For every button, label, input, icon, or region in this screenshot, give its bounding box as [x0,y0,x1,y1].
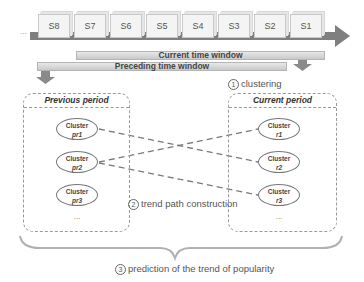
step-prediction-label: 3prediction of the trend of popularity [115,263,274,275]
time-slice-s7: S7 [74,14,106,38]
step-number-badge: 2 [128,199,139,210]
cluster-pr2: Cluster pr2 [56,151,98,173]
current-period-title: Current period [229,94,336,108]
cluster-r3: Cluster r3 [258,184,300,206]
cluster-label: Cluster [268,188,290,195]
time-slice-s2: S2 [254,14,286,38]
cluster-label: Cluster [66,155,88,162]
step-text: clustering [241,78,282,89]
step-text: trend path construction [141,198,238,209]
cluster-id: pr1 [57,130,97,139]
cluster-pr1: Cluster pr1 [56,118,98,140]
cluster-id: r2 [259,163,299,172]
cluster-label: Cluster [66,122,88,129]
step-trend-path-label: 2trend path construction [128,198,238,210]
cluster-id: r1 [259,130,299,139]
current-time-window-bar: Current time window [76,51,325,60]
timeline-leading-ellipsis: ... [20,27,27,36]
time-slice-s8: S8 [38,14,70,38]
current-period-more: ... [268,212,290,221]
cluster-id: pr2 [57,163,97,172]
step-number-badge: 3 [115,264,126,275]
grouping-brace [20,236,342,258]
time-slice-s5: S5 [146,14,178,38]
step-clustering-label: 1clustering [228,78,282,90]
preceding-time-window-bar: Preceding time window [37,62,287,71]
time-slice-s3: S3 [218,14,250,38]
previous-period-title: Previous period [24,94,129,108]
down-arrow-preceding [36,70,55,84]
cluster-r2: Cluster r2 [258,151,300,173]
step-text: prediction of the trend of popularity [128,263,274,274]
previous-period-more: ... [66,212,88,221]
cluster-label: Cluster [268,122,290,129]
time-slice-s6: S6 [110,14,142,38]
time-slice-s4: S4 [182,14,214,38]
cluster-label: Cluster [268,155,290,162]
time-slice-s1: S1 [290,14,322,38]
cluster-id: pr3 [57,196,97,205]
cluster-r1: Cluster r1 [258,118,300,140]
cluster-pr3: Cluster pr3 [56,184,98,206]
cluster-label: Cluster [66,188,88,195]
cluster-id: r3 [259,196,299,205]
step-number-badge: 1 [228,79,239,90]
